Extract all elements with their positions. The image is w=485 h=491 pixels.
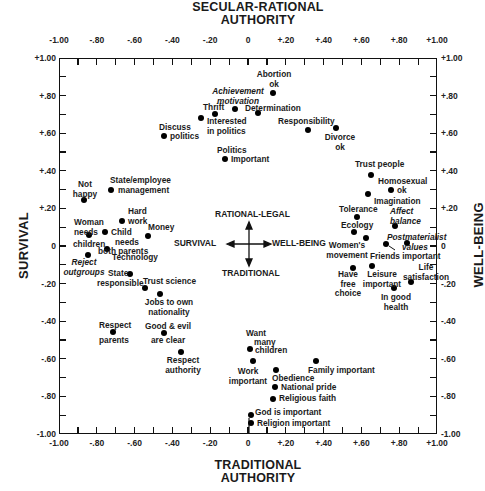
legend-up-label: RATIONAL-LEGAL (215, 209, 290, 219)
label-are-clear: are clear (151, 336, 185, 346)
label-friends-important: Friends important (370, 252, 441, 262)
label-womens-movement: Women'smovement (322, 241, 372, 260)
data-point (272, 384, 278, 390)
label-respect-authority: Respectauthority (160, 356, 206, 375)
data-point (250, 358, 256, 364)
label-politics-important-2: Important (231, 155, 269, 165)
data-point (161, 133, 167, 139)
legend-arrows (227, 222, 271, 266)
label-money: Money (148, 223, 174, 233)
label-divorce-ok: Divorceok (322, 133, 358, 152)
label-ecology: Ecology (341, 221, 373, 231)
label-discuss-politics-2: politics (170, 132, 199, 142)
label-jobs-to-own-nationality: Jobs to ownnationality (140, 298, 198, 317)
data-point (248, 420, 254, 426)
label-homosexual-ok: ok (397, 186, 407, 196)
label-not-happy: Nothappy (72, 180, 98, 199)
label-national-pride: National pride (281, 383, 336, 393)
data-point (313, 358, 319, 364)
data-point (388, 187, 394, 193)
label-tolerance: Tolerance (339, 205, 378, 215)
label-respect: Respect (99, 321, 131, 331)
data-point (365, 191, 371, 197)
legend-down-label: TRADITIONAL (222, 268, 280, 278)
legend-right-label: WELL-BEING (272, 238, 326, 248)
label-life-satisfaction: Lifesatisfaction (398, 263, 454, 282)
label-trust-people: Trust people (355, 160, 404, 170)
label-interested-in-politics: Interestedin politics (207, 117, 247, 136)
label-thrift: Thrift (203, 103, 224, 113)
data-point (222, 156, 228, 162)
label-state-responsible: responsible (97, 279, 144, 289)
label-trust-science: Trust science (143, 277, 196, 287)
label-reject-outgroups: Rejectoutgroups (62, 258, 106, 277)
data-point (119, 218, 125, 224)
label-religion-important: Religion important (257, 419, 330, 429)
label-responsibility: Responsibility (278, 117, 335, 127)
data-point (305, 127, 311, 133)
label-good-evil: Good & evil (145, 322, 191, 332)
data-point (247, 346, 253, 352)
legend-left-label: SURVIVAL (174, 238, 216, 248)
label-god-is-important: God is important (255, 408, 321, 418)
label-respect-parents: parents (99, 336, 129, 346)
label-determination: Determination (245, 104, 301, 114)
data-point (248, 412, 254, 418)
label-religious-faith: Religious faith (279, 394, 336, 404)
label-hard-work: Hardwork (128, 207, 147, 226)
data-point (232, 106, 238, 112)
label-in-good-health: In goodhealth (376, 293, 416, 312)
label-family-important: Family important (308, 366, 375, 376)
label-children-want: children (255, 346, 287, 356)
label-state-employee-management: State/employeemanagement (110, 176, 171, 195)
data-point (368, 172, 374, 178)
label-affect-balance: Affectbalance (390, 207, 421, 226)
label-postmaterialist-values: Postmaterialistvalues (387, 233, 446, 252)
data-point (270, 396, 276, 402)
label-technology: Technology (112, 253, 158, 263)
label-work-important: Workimportant (226, 367, 270, 386)
data-point (198, 115, 204, 121)
label-woman-needs: Womanneeds (74, 218, 104, 237)
